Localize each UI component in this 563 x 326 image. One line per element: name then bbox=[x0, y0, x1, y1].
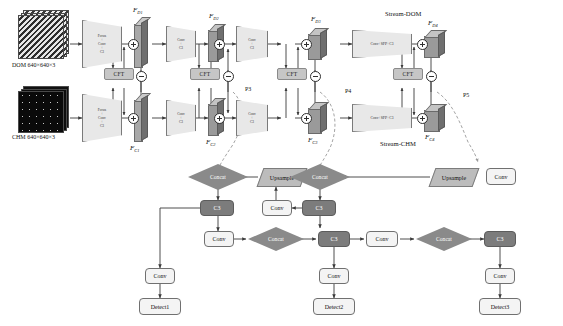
stem-dom-block: Focus+Conv+C3 bbox=[82, 20, 122, 68]
conv-node-p5: Conv bbox=[486, 168, 516, 185]
detect-label-1: Detect1 bbox=[151, 304, 170, 310]
chm-conv-c3-block-2: Conv+C3 bbox=[236, 100, 268, 136]
detect-label-3: Detect3 bbox=[491, 304, 510, 310]
c3-node-2: C3 bbox=[302, 200, 336, 216]
stem-chm-block: Focus+Conv+C3 bbox=[82, 94, 122, 142]
add-op-chm-4 bbox=[417, 113, 428, 124]
pyramid-tap-p4: P4 bbox=[345, 88, 351, 94]
concat-node-4: Concat bbox=[416, 227, 472, 251]
conv-label-pan-2: Conv bbox=[375, 236, 388, 242]
add-op-dom-4 bbox=[417, 39, 428, 50]
add-op-dom-1 bbox=[128, 39, 139, 50]
add-op-dom-3 bbox=[301, 39, 312, 50]
chm-spp-block: Conv+SPP+C3 bbox=[352, 104, 412, 132]
add-op-dom-2 bbox=[214, 39, 225, 50]
conv-label-mid: Conv bbox=[270, 205, 283, 211]
pyramid-tap-p5: P5 bbox=[463, 92, 469, 98]
dom-spp-block: Conv+SPP+C3 bbox=[352, 30, 412, 58]
diagram-canvas: DOM 640×640×3 CHM 640×640×3 Focus+Conv+C… bbox=[0, 0, 563, 326]
conv-label-p5: Conv bbox=[494, 174, 507, 180]
cft-label-2: CFT bbox=[199, 71, 210, 77]
concat-label-2: Concat bbox=[312, 174, 328, 180]
concat-label-1: Concat bbox=[210, 174, 226, 180]
dom-conv-c3-block-1: Conv+C3 bbox=[166, 26, 196, 62]
conv-node-head-1: Conv bbox=[145, 268, 175, 284]
feature-label-dom-4: FD4 bbox=[428, 19, 438, 28]
add-op-chm-2 bbox=[214, 113, 225, 124]
c3-label-2: C3 bbox=[315, 205, 322, 211]
cft-label-1: CFT bbox=[113, 71, 124, 77]
chm-input-caption: CHM 640×640×3 bbox=[12, 134, 55, 140]
cft-block-3: CFT bbox=[277, 68, 307, 80]
conv-node-head-2: Conv bbox=[319, 268, 349, 284]
fuse-op-4 bbox=[426, 71, 437, 82]
upsample-node-2: Upsample bbox=[429, 168, 480, 187]
feature-label-chm-2: FC2 bbox=[206, 138, 215, 147]
concat-node-3: Concat bbox=[248, 227, 304, 251]
c3-node-1: C3 bbox=[200, 200, 234, 216]
concat-label-4: Concat bbox=[436, 236, 452, 242]
conv-label-head-1: Conv bbox=[153, 273, 166, 279]
conv-node-mid: Conv bbox=[262, 200, 292, 216]
add-op-chm-1 bbox=[128, 113, 139, 124]
dom-conv-c3-block-2: Conv+C3 bbox=[236, 26, 268, 62]
c3-node-3: C3 bbox=[318, 231, 350, 247]
feature-label-chm-4: FC4 bbox=[425, 133, 434, 142]
fuse-op-1 bbox=[136, 71, 147, 82]
chm-input-image bbox=[18, 86, 70, 132]
c3-node-4: C3 bbox=[484, 231, 516, 247]
conv-label-pan-1: Conv bbox=[212, 236, 225, 242]
cft-block-4: CFT bbox=[393, 68, 423, 80]
c3-label-1: C3 bbox=[213, 205, 220, 211]
stream-dom-label: Stream-DOM bbox=[385, 10, 421, 17]
conv-label-head-3: Conv bbox=[493, 273, 506, 279]
concat-node-2: Concat bbox=[290, 164, 350, 190]
c3-label-4: C3 bbox=[496, 236, 503, 242]
concat-label-3: Concat bbox=[268, 236, 284, 242]
concat-node-1: Concat bbox=[188, 164, 248, 190]
feature-label-dom-2: FD2 bbox=[209, 12, 219, 21]
chm-conv-c3-block-1: Conv+C3 bbox=[166, 100, 196, 136]
feature-label-dom-1: FD1 bbox=[133, 6, 143, 15]
c3-label-3: C3 bbox=[330, 236, 337, 242]
conv-label-head-2: Conv bbox=[327, 273, 340, 279]
feature-label-chm-3: FC3 bbox=[308, 136, 317, 145]
detect-label-2: Detect2 bbox=[325, 304, 344, 310]
fuse-op-2 bbox=[223, 71, 234, 82]
stem-dom-label: Focus+Conv+C3 bbox=[98, 34, 107, 54]
pyramid-tap-p3: P3 bbox=[245, 86, 251, 92]
add-op-chm-3 bbox=[301, 113, 312, 124]
cft-block-2: CFT bbox=[190, 68, 220, 80]
cft-label-4: CFT bbox=[402, 71, 413, 77]
cft-block-1: CFT bbox=[104, 68, 134, 80]
stem-chm-label: Focus+Conv+C3 bbox=[98, 108, 107, 128]
conv-node-head-3: Conv bbox=[485, 268, 515, 284]
feature-label-dom-3: FD3 bbox=[311, 15, 321, 24]
detect-head-3: Detect3 bbox=[479, 298, 521, 315]
detect-head-2: Detect2 bbox=[313, 298, 355, 315]
detect-head-1: Detect1 bbox=[139, 298, 181, 315]
upsample-label-2: Upsample bbox=[442, 175, 466, 181]
cft-label-3: CFT bbox=[286, 71, 297, 77]
dom-input-caption: DOM 640×640×3 bbox=[12, 62, 55, 68]
stream-chm-label: Stream-CHM bbox=[380, 140, 416, 147]
conv-node-pan-1: Conv bbox=[204, 231, 234, 247]
dom-input-image bbox=[18, 10, 70, 58]
fuse-op-3 bbox=[310, 71, 321, 82]
feature-label-chm-1: FC1 bbox=[130, 144, 139, 153]
conv-node-pan-2: Conv bbox=[366, 231, 398, 247]
